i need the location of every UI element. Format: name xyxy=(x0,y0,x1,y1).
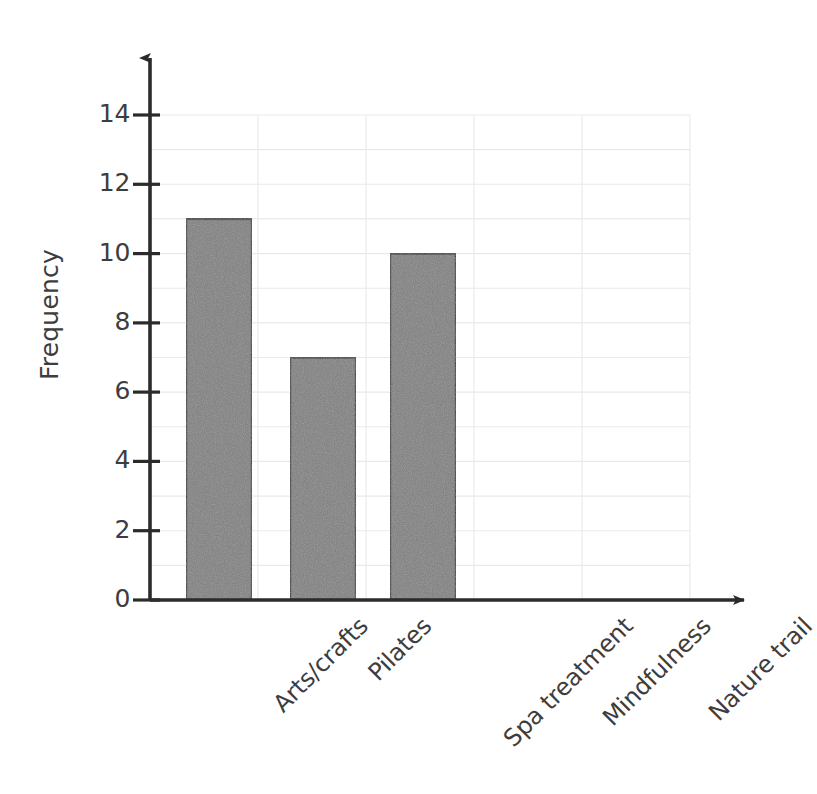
bar-pilates xyxy=(290,358,356,601)
bars-group xyxy=(186,219,456,600)
y-tick-label-0: 0 xyxy=(84,584,130,613)
y-tick-label-8: 8 xyxy=(84,307,130,336)
bar-spa-treatment xyxy=(390,254,456,600)
y-tick-label-12: 12 xyxy=(84,168,130,197)
bar-arts-crafts xyxy=(186,219,252,600)
y-tick-label-10: 10 xyxy=(84,238,130,267)
y-tick-label-6: 6 xyxy=(84,376,130,405)
y-tick-label-4: 4 xyxy=(84,445,130,474)
y-tick-label-2: 2 xyxy=(84,515,130,544)
y-tick-label-14: 14 xyxy=(84,99,130,128)
y-axis-title: Frequency xyxy=(35,220,64,410)
